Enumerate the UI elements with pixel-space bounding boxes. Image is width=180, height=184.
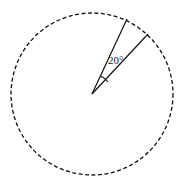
- sector-diagram: 20°: [0, 0, 180, 184]
- angle-label: 20°: [108, 54, 123, 66]
